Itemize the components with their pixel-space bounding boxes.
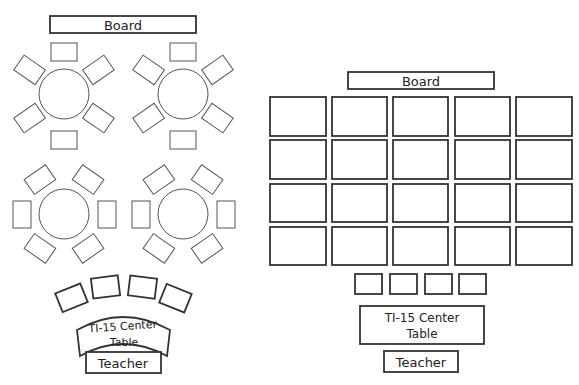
chair-lower-right (83, 103, 115, 133)
right-center-table-line2: Table (405, 327, 437, 341)
right-teacher-label: Teacher (395, 355, 447, 370)
chair-right (98, 201, 116, 228)
desk-r4-c2 (332, 227, 387, 265)
right-center-table-line1: TI-15 Center (384, 311, 460, 325)
round-table (39, 69, 89, 119)
chair-upper-left (14, 55, 46, 85)
desk-grid (270, 97, 572, 265)
desk-r3-c5 (516, 184, 572, 222)
chair-lower-left (14, 103, 46, 133)
chair-lower-left (24, 234, 56, 264)
chair-bottom (170, 131, 196, 149)
chair-left (132, 201, 150, 228)
desk-r2-c3 (393, 140, 448, 179)
chair-lower-right (202, 103, 234, 133)
round-table (39, 189, 89, 239)
chair-top (51, 43, 77, 61)
small-desk-4 (459, 274, 486, 294)
right-center-table: TI-15 Center Table (360, 306, 484, 344)
right-layout: Board (270, 72, 572, 372)
desk-r2-c2 (332, 140, 387, 179)
chair-upper-right (202, 55, 234, 85)
right-board: Board (348, 72, 494, 89)
left-board: Board (50, 16, 196, 33)
round-table (158, 69, 208, 119)
arc-desk-3 (128, 275, 157, 298)
chair-lower-left (143, 234, 175, 264)
right-board-label: Board (402, 74, 440, 89)
chair-upper-right (83, 55, 115, 85)
table-cluster-top-left (14, 43, 114, 149)
chair-bottom (51, 131, 77, 149)
chair-top (170, 43, 196, 61)
desk-r1-c5 (516, 97, 572, 136)
chair-upper-right (191, 165, 223, 195)
round-table (158, 189, 208, 239)
desk-r4-c5 (516, 227, 572, 265)
desk-r3-c3 (393, 184, 448, 222)
table-cluster-top-right (133, 43, 233, 149)
desk-r4-c4 (455, 227, 510, 265)
left-center-table-line2: Table (109, 336, 139, 349)
desk-r4-c1 (270, 227, 326, 265)
desk-r3-c1 (270, 184, 326, 222)
arc-desk-4 (159, 284, 192, 313)
left-center-table: TI-15 Center Table (77, 317, 170, 356)
left-board-label: Board (104, 18, 142, 33)
classroom-layouts: Board (0, 0, 579, 385)
desk-r1-c4 (455, 97, 510, 136)
chair-right (217, 201, 235, 228)
chair-lower-right (72, 234, 104, 264)
small-desk-2 (390, 274, 417, 294)
chair-upper-right (72, 165, 104, 195)
desk-r4-c3 (393, 227, 448, 265)
desk-r1-c3 (393, 97, 448, 136)
left-teacher-desk: Teacher (86, 352, 161, 373)
chair-lower-right (191, 234, 223, 264)
desk-r1-c2 (332, 97, 387, 136)
chair-left (13, 201, 31, 228)
chair-upper-left (133, 55, 165, 85)
chair-lower-left (133, 103, 165, 133)
arc-desks (55, 275, 192, 312)
left-teacher-label: Teacher (97, 356, 149, 371)
desk-r3-c4 (455, 184, 510, 222)
table-cluster-bottom-right (132, 165, 235, 263)
desk-r2-c1 (270, 140, 326, 179)
chair-upper-left (24, 165, 56, 195)
arc-desk-1 (55, 283, 88, 312)
table-cluster-bottom-left (13, 165, 116, 263)
chair-upper-left (143, 165, 175, 195)
desk-r2-c5 (516, 140, 572, 179)
arc-desk-2 (91, 275, 120, 298)
small-desk-1 (355, 274, 382, 294)
desk-r2-c4 (455, 140, 510, 179)
left-layout: Board (13, 16, 235, 373)
small-desk-3 (425, 274, 452, 294)
small-desks (355, 274, 486, 294)
right-teacher-desk: Teacher (384, 351, 458, 372)
desk-r3-c2 (332, 184, 387, 222)
desk-r1-c1 (270, 97, 326, 136)
